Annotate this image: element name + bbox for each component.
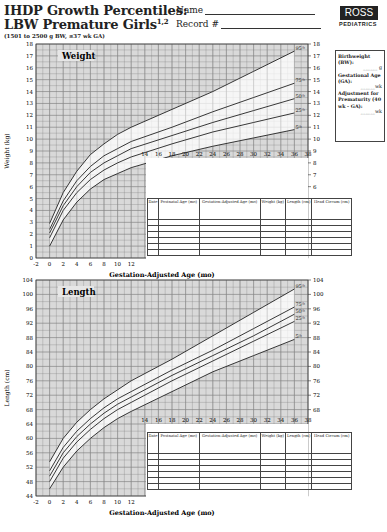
table-cell[interactable] bbox=[148, 484, 159, 490]
svg-text:28: 28 bbox=[237, 151, 244, 157]
svg-text:2: 2 bbox=[30, 231, 34, 237]
svg-text:5ᵗʰ: 5ᵗʰ bbox=[295, 333, 302, 339]
table-cell[interactable] bbox=[260, 250, 285, 256]
title-superscript: 1,2 bbox=[157, 17, 169, 26]
svg-text:12: 12 bbox=[26, 112, 33, 118]
svg-text:30: 30 bbox=[250, 417, 257, 423]
svg-text:14: 14 bbox=[141, 151, 148, 157]
page-title-line2: LBW Premature Girls1,2 bbox=[4, 17, 168, 32]
weight-record-table: DatePostnatal Age (mo)Gestation-Adjusted… bbox=[147, 198, 352, 256]
table-header-row: DatePostnatal Age (mo)Gestation-Adjusted… bbox=[148, 433, 352, 454]
svg-text:96: 96 bbox=[26, 306, 33, 312]
svg-text:15: 15 bbox=[26, 77, 33, 83]
svg-text:7: 7 bbox=[313, 172, 317, 178]
birth-info-box: Birthweight (BW): ______ g Gestational A… bbox=[335, 50, 385, 142]
svg-text:8: 8 bbox=[102, 499, 106, 505]
svg-text:14: 14 bbox=[313, 89, 320, 95]
svg-text:2: 2 bbox=[61, 261, 65, 267]
svg-text:72: 72 bbox=[26, 392, 33, 398]
svg-text:7: 7 bbox=[30, 172, 34, 178]
page-title-line1: IHDP Growth Percentiles: bbox=[4, 3, 187, 18]
svg-text:8: 8 bbox=[30, 160, 34, 166]
svg-text:15: 15 bbox=[313, 77, 320, 83]
table-cell[interactable] bbox=[148, 250, 159, 256]
column-header: Gestation-Adjusted Age (mo) bbox=[199, 199, 260, 220]
svg-text:3: 3 bbox=[30, 219, 34, 225]
svg-text:14: 14 bbox=[141, 417, 148, 423]
svg-text:12: 12 bbox=[313, 112, 320, 118]
column-header: Head Circum (cm) bbox=[312, 199, 352, 220]
table-cell[interactable] bbox=[199, 250, 260, 256]
svg-text:6: 6 bbox=[313, 184, 317, 190]
svg-text:18: 18 bbox=[169, 151, 176, 157]
table-cell[interactable] bbox=[312, 250, 352, 256]
svg-text:10: 10 bbox=[114, 261, 121, 267]
svg-text:92: 92 bbox=[26, 320, 33, 326]
column-header: Postnatal Age (mo) bbox=[158, 433, 199, 454]
svg-text:8: 8 bbox=[313, 160, 317, 166]
svg-text:Length (cm): Length (cm) bbox=[3, 369, 11, 406]
svg-text:6: 6 bbox=[30, 184, 34, 190]
svg-text:26: 26 bbox=[223, 151, 230, 157]
table-cell[interactable] bbox=[199, 484, 260, 490]
svg-text:24: 24 bbox=[209, 417, 216, 423]
svg-text:30: 30 bbox=[250, 151, 257, 157]
svg-text:6: 6 bbox=[89, 261, 93, 267]
table-row bbox=[148, 250, 352, 256]
table-cell[interactable] bbox=[312, 484, 352, 490]
svg-text:48: 48 bbox=[26, 479, 33, 485]
svg-text:60: 60 bbox=[26, 435, 33, 441]
svg-text:34: 34 bbox=[277, 151, 284, 157]
svg-text:95ᵗʰ: 95ᵗʰ bbox=[295, 45, 305, 51]
svg-text:20: 20 bbox=[182, 417, 189, 423]
svg-text:100: 100 bbox=[313, 291, 324, 297]
svg-text:-2: -2 bbox=[33, 261, 38, 267]
svg-text:68: 68 bbox=[313, 407, 320, 413]
svg-text:104: 104 bbox=[23, 277, 34, 283]
svg-text:4: 4 bbox=[75, 499, 79, 505]
adj-blank[interactable]: ______wk bbox=[338, 109, 382, 115]
column-header: Gestation-Adjusted Age (mo) bbox=[199, 433, 260, 454]
svg-text:18: 18 bbox=[26, 41, 33, 47]
svg-text:95ᵗʰ: 95ᵗʰ bbox=[295, 283, 305, 289]
svg-text:76: 76 bbox=[26, 378, 33, 384]
svg-text:12: 12 bbox=[128, 261, 135, 267]
svg-text:13: 13 bbox=[313, 100, 320, 106]
svg-text:10: 10 bbox=[26, 136, 33, 142]
svg-text:50ᵗʰ: 50ᵗʰ bbox=[295, 93, 305, 99]
table-header-row: DatePostnatal Age (mo)Gestation-Adjusted… bbox=[148, 199, 352, 220]
svg-text:17: 17 bbox=[26, 53, 33, 59]
table-cell[interactable] bbox=[158, 484, 199, 490]
table-cell[interactable] bbox=[158, 250, 199, 256]
svg-text:38: 38 bbox=[305, 417, 312, 423]
svg-text:18: 18 bbox=[169, 417, 176, 423]
svg-text:75ᵗʰ: 75ᵗʰ bbox=[295, 301, 305, 307]
svg-text:12: 12 bbox=[128, 499, 135, 505]
record-input-line[interactable] bbox=[221, 20, 321, 29]
svg-text:16: 16 bbox=[155, 151, 162, 157]
column-header: Weight (kg) bbox=[260, 433, 285, 454]
table-cell[interactable] bbox=[285, 484, 312, 490]
svg-text:Gestation-Adjusted Age (mo): Gestation-Adjusted Age (mo) bbox=[109, 509, 214, 517]
svg-text:25ᵗʰ: 25ᵗʰ bbox=[295, 315, 305, 321]
record-field[interactable]: Record # bbox=[176, 19, 321, 29]
svg-text:32: 32 bbox=[264, 151, 271, 157]
svg-text:56: 56 bbox=[26, 450, 33, 456]
svg-text:84: 84 bbox=[26, 349, 33, 355]
length-record-table: DatePostnatal Age (mo)Gestation-Adjusted… bbox=[147, 432, 352, 490]
svg-text:96: 96 bbox=[313, 306, 320, 312]
svg-text:10: 10 bbox=[114, 499, 121, 505]
svg-text:13: 13 bbox=[26, 100, 33, 106]
svg-text:76: 76 bbox=[313, 378, 320, 384]
svg-text:34: 34 bbox=[277, 417, 284, 423]
svg-text:28: 28 bbox=[237, 417, 244, 423]
name-input-line[interactable] bbox=[205, 6, 315, 15]
ross-logo: ROSS bbox=[340, 6, 378, 20]
table-cell[interactable] bbox=[260, 484, 285, 490]
name-field[interactable]: Name bbox=[176, 5, 315, 15]
table-cell[interactable] bbox=[285, 250, 312, 256]
svg-text:9: 9 bbox=[30, 148, 34, 154]
svg-text:17: 17 bbox=[313, 53, 320, 59]
svg-text:38: 38 bbox=[305, 151, 312, 157]
title-text: LBW Premature Girls bbox=[4, 17, 157, 32]
